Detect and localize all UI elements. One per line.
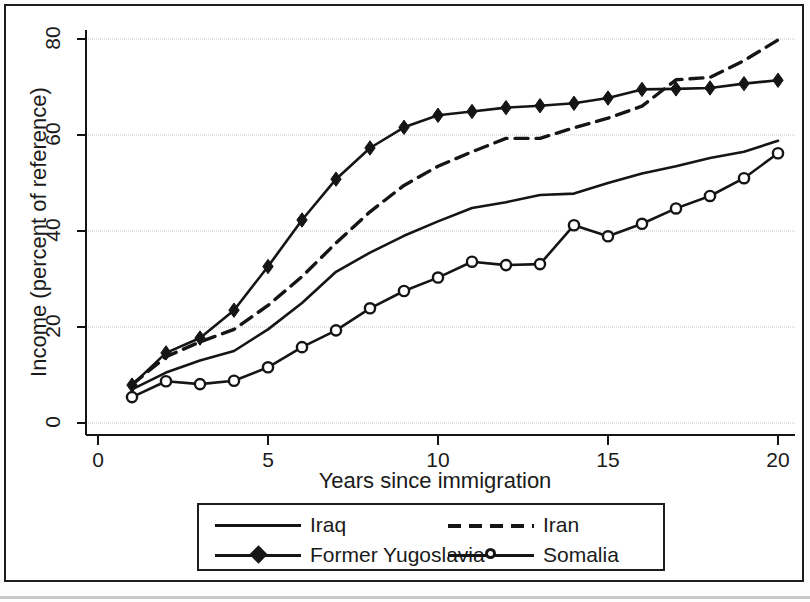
x-tick-label: 15 <box>578 448 638 472</box>
y-tick-label: 20 <box>41 306 65 346</box>
y-tick-label: 60 <box>41 114 65 154</box>
series-line-iraq <box>132 141 778 390</box>
marker-circle <box>535 259 545 269</box>
legend-item-somalia: Somalia <box>448 540 619 570</box>
x-tick-label: 0 <box>68 448 128 472</box>
marker-circle <box>637 219 647 229</box>
marker-circle <box>569 220 579 230</box>
marker-circle <box>705 191 715 201</box>
legend-label-iran: Iran <box>543 513 579 537</box>
series-line-iran <box>132 40 778 385</box>
legend-label-somalia: Somalia <box>543 543 619 567</box>
marker-circle <box>773 148 783 158</box>
marker-diamond <box>773 73 783 87</box>
marker-diamond <box>433 108 443 122</box>
marker-circle <box>467 257 477 267</box>
marker-circle <box>399 286 409 296</box>
marker-circle <box>263 362 273 372</box>
marker-circle <box>365 303 375 313</box>
marker-diamond <box>535 99 545 113</box>
marker-circle <box>127 392 137 402</box>
y-tick-label: 80 <box>41 18 65 58</box>
legend-key-solid-line <box>215 515 301 535</box>
x-tick-label: 10 <box>408 448 468 472</box>
marker-diamond <box>467 104 477 118</box>
marker-circle <box>161 376 171 386</box>
legend-label-iraq: Iraq <box>310 513 346 537</box>
legend-item-iraq: Iraq <box>215 510 346 540</box>
legend-item-iran: Iran <box>448 510 579 540</box>
legend-item-former-yugoslavia: Former Yugoslavia <box>215 540 485 570</box>
legend-key-dashed-line <box>448 515 534 535</box>
marker-circle <box>603 231 613 241</box>
y-tick-label: 0 <box>41 402 65 442</box>
series-line-somalia <box>132 153 778 397</box>
data-series-layer <box>127 40 783 402</box>
legend-key-solid-line-circle <box>448 545 534 565</box>
marker-circle <box>671 203 681 213</box>
marker-diamond <box>637 82 647 96</box>
marker-circle <box>331 325 341 335</box>
marker-circle <box>501 260 511 270</box>
x-tick-label: 20 <box>748 448 808 472</box>
marker-diamond <box>739 76 749 90</box>
figure-scan: Income (percent of reference) Years sinc… <box>0 0 810 602</box>
marker-diamond <box>603 91 613 105</box>
marker-circle <box>739 173 749 183</box>
series-line-former-yugoslavia <box>132 80 778 385</box>
marker-diamond <box>399 120 409 134</box>
marker-circle <box>195 379 205 389</box>
gridlines <box>86 39 795 423</box>
marker-diamond <box>705 81 715 95</box>
marker-circle <box>229 376 239 386</box>
x-tick-label: 5 <box>238 448 298 472</box>
marker-diamond <box>501 100 511 114</box>
marker-circle <box>433 272 443 282</box>
marker-diamond <box>569 96 579 110</box>
legend-box: Iraq Former Yugoslavia Iran Somalia <box>197 503 665 571</box>
legend-key-solid-line-diamond <box>215 545 301 565</box>
y-tick-label: 40 <box>41 210 65 250</box>
marker-circle <box>297 342 307 352</box>
